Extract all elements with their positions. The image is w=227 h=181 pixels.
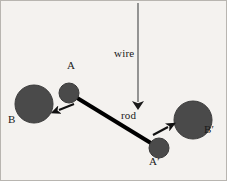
label-wire: wire — [114, 48, 134, 59]
label-sphere-b-prime: B′ — [204, 124, 214, 135]
force-arrow-a-prime-to-b-prime — [153, 127, 168, 135]
sphere-b-large — [15, 85, 53, 123]
torsion-balance-figure: A B A′ B′ wire rod — [0, 0, 227, 181]
label-sphere-a: A — [67, 60, 75, 71]
label-rod: rod — [121, 110, 136, 121]
label-sphere-b: B — [8, 114, 16, 125]
force-arrow-a-to-b — [59, 104, 74, 110]
diagram-canvas — [1, 1, 227, 181]
label-sphere-a-prime: A′ — [149, 156, 160, 167]
sphere-a-small — [59, 83, 79, 103]
rod-line — [69, 93, 159, 148]
rod-group — [69, 93, 159, 148]
